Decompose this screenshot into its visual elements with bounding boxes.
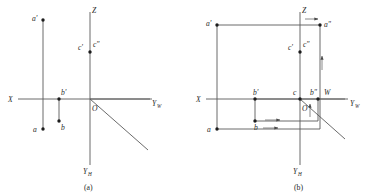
- panel-b-label-b: b: [254, 123, 258, 132]
- panel-a-label-b: b: [61, 123, 65, 132]
- panel-a-axis-label-yh-sub: H: [87, 171, 92, 177]
- panel-b-point-a-prime: [215, 23, 218, 26]
- panel-a-label-c-double-prime: c": [93, 40, 100, 49]
- panel-b-point-a: [215, 127, 218, 130]
- panel-a-label-c-prime: c': [78, 43, 83, 52]
- projection-diagram-svg: a' a b' b c' c" X Z O Y W Y H (a): [0, 0, 385, 195]
- panel-b-point-c: [298, 97, 301, 100]
- panel-b-axis-label-yw-sub: W: [355, 103, 360, 109]
- panel-a-axis-label-yw: Y W: [152, 99, 162, 109]
- panel-a-axis-label-z: Z: [92, 6, 97, 15]
- panel-b-point-c-prime: [298, 50, 301, 53]
- panel-b-label-c-double-prime: c": [303, 40, 310, 49]
- panel-a-axis-label-x: X: [7, 95, 13, 104]
- panel-a-label-a-prime: a': [32, 14, 38, 23]
- panel-b-label-b-prime: b': [253, 88, 259, 97]
- panel-a-point-a: [41, 127, 44, 130]
- panel-b-axis-label-yw: Y W: [350, 99, 360, 109]
- panel-b-label-a: a: [207, 125, 211, 134]
- panel-b-label-b-double-prime: b": [310, 88, 318, 97]
- panel-b-label-a-double-prime: a": [324, 20, 332, 29]
- panel-a-point-c: [88, 50, 91, 53]
- panel-b-axis-label-yh: Y H: [293, 167, 302, 177]
- panel-b-axis-label-w: W: [324, 88, 331, 97]
- panel-a-axis-label-origin: O: [92, 104, 98, 113]
- panel-a-bisector-axis: [90, 99, 148, 150]
- panel-b-caption: (b): [294, 183, 303, 192]
- panel-b-point-a-double-prime: [318, 23, 321, 26]
- panel-a-caption: (a): [84, 183, 93, 192]
- panel-b-label-c: c: [293, 88, 297, 97]
- panel-a-axis-label-yh: Y H: [83, 167, 92, 177]
- panel-b-label-c-prime: c': [288, 43, 293, 52]
- figure-root: a' a b' b c' c" X Z O Y W Y H (a): [0, 0, 385, 195]
- panel-b-axis-label-origin: O: [302, 104, 308, 113]
- panel-b-axis-label-yh-sub: H: [297, 171, 302, 177]
- panel-b: a' a" a b' b" b c c' c" X Z O W Y W Y H …: [195, 6, 360, 192]
- panel-b-point-b-prime: [253, 97, 256, 100]
- panel-a-label-a: a: [33, 125, 37, 134]
- panel-a-point-a-prime: [41, 18, 44, 21]
- panel-b-axis-label-x: X: [195, 95, 201, 104]
- panel-a: a' a b' b c' c" X Z O Y W Y H (a): [7, 6, 162, 192]
- panel-b-point-b-double-prime: [316, 97, 319, 100]
- panel-a-label-b-prime: b': [61, 88, 67, 97]
- panel-a-axis-label-yw-sub: W: [157, 103, 162, 109]
- panel-b-label-a-prime: a': [206, 19, 212, 28]
- panel-a-point-b-prime: [57, 97, 60, 100]
- panel-b-axis-label-z: Z: [302, 6, 307, 15]
